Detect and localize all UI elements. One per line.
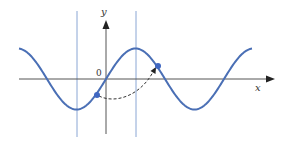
y-axis-label: y [100, 6, 107, 17]
x-axis-label: x [255, 82, 261, 93]
point-1 [94, 92, 100, 98]
dashed-arrow-head-icon [151, 67, 157, 74]
x-axis-arrow-icon [266, 76, 275, 83]
point-2 [155, 63, 161, 69]
y-axis-arrow-icon [103, 20, 110, 29]
origin-label: 0 [96, 68, 102, 78]
sine-wave-figure: y x 0 [0, 0, 288, 147]
